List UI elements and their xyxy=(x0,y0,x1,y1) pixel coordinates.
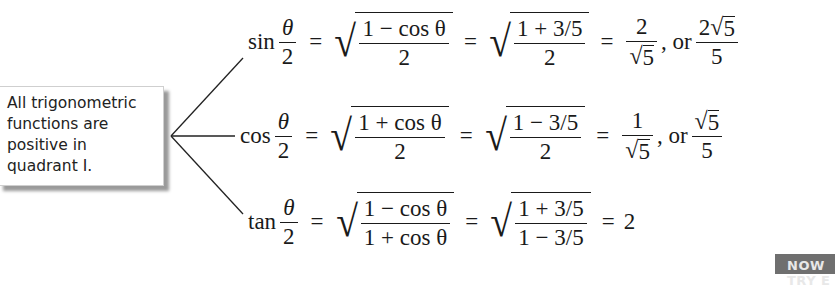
cos-half-angle-equation: cos θ2 = √1 + cos θ2 = √1 − 3/52 = 1√5 ,… xyxy=(240,96,726,176)
sqrt-substituted: √1 + 3/52 xyxy=(488,12,590,72)
cos-label: cos xyxy=(240,123,271,149)
sqrt-formula: √1 − cos θ2 xyxy=(333,12,453,72)
sin-label: sin xyxy=(248,29,275,55)
now-try-exercise-banner[interactable]: NOW TRY E xyxy=(775,254,835,274)
tan-label: tan xyxy=(248,209,276,235)
tan-half-angle-equation: tan θ2 = √1 − cos θ1 + cos θ = √1 + 3/51… xyxy=(248,182,635,262)
sin-half-angle-equation: sin θ2 = √1 − cos θ2 = √1 + 3/52 = 2√5 ,… xyxy=(248,2,742,82)
tan-result: 2 xyxy=(624,209,636,235)
